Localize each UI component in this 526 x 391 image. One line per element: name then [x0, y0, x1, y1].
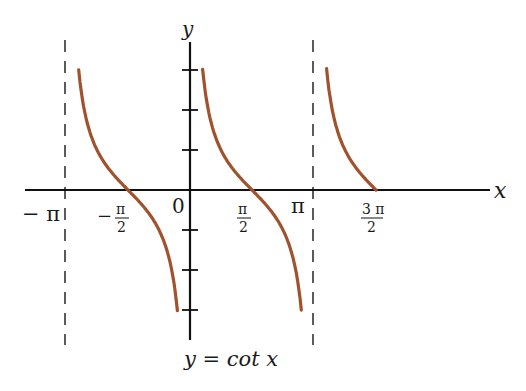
x-axis-label: x — [494, 178, 507, 203]
tick-label-pi: π — [291, 194, 305, 218]
tick-label-neg-pi-half-den: 2 — [117, 219, 126, 235]
cot-branch-3 — [327, 69, 376, 190]
tick-label-pi-half-num: π — [238, 201, 247, 217]
tick-label-neg-pi-half-num: π — [116, 201, 125, 217]
tick-label-neg-pi: − π — [22, 202, 60, 226]
tick-label-pi-half-den: 2 — [239, 219, 248, 235]
tick-label-zero: 0 — [172, 194, 185, 218]
tick-label-3pi-half-den: 2 — [367, 219, 376, 235]
caption: y = cot x — [183, 347, 278, 371]
y-axis-label: y — [181, 17, 194, 41]
tick-label-neg-pi-half-sign: − — [97, 205, 112, 226]
cot-graph: y x − π − π 2 0 π 2 π 3 π 2 y = cot x — [0, 0, 526, 391]
tick-label-3pi-half-num: 3 π — [362, 201, 385, 217]
